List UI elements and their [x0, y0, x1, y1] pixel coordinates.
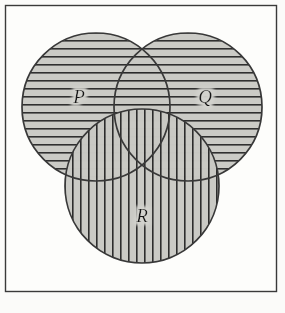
venn-diagram-figure: P Q R: [0, 0, 285, 313]
set-label-q: Q: [198, 86, 212, 107]
set-label-r: R: [135, 205, 148, 226]
set-label-p: P: [72, 86, 85, 107]
venn-diagram-canvas: P Q R: [0, 0, 285, 313]
